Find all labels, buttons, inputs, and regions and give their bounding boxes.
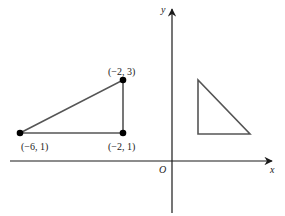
- label-neg6-1: (−6, 1): [21, 141, 48, 153]
- coordinate-plane: x y O (−6, 1) (−2, 1) (−2, 3): [0, 0, 285, 216]
- triangle-left: [20, 80, 123, 133]
- point-neg6-1: [17, 130, 24, 137]
- x-axis-label: x: [269, 164, 275, 175]
- triangle-right: [198, 80, 250, 134]
- y-axis-label: y: [160, 4, 166, 15]
- label-neg2-3: (−2, 3): [108, 66, 135, 78]
- label-neg2-1: (−2, 1): [108, 141, 135, 153]
- point-neg2-3: [120, 77, 127, 84]
- point-neg2-1: [120, 130, 127, 137]
- origin-label: O: [159, 164, 166, 175]
